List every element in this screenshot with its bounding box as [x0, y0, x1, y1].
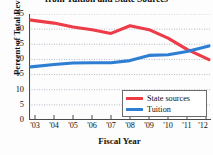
x-tick-label-0: '03 [25, 122, 45, 130]
chart-container: from Tuition and State Sources Percent o… [0, 0, 213, 155]
y-tick-label-5: 5 [0, 101, 24, 109]
x-axis-label: Fiscal Year [26, 136, 213, 146]
y-tick-label-10: 10 [0, 86, 24, 94]
y-tick-label-15: 15 [0, 70, 24, 78]
chart-title: from Tuition and State Sources [0, 0, 213, 4]
legend-label-state-sources: State sources [147, 94, 190, 103]
x-tick-label-2: '05 [63, 122, 83, 130]
x-tick-label-4: '07 [101, 122, 121, 130]
legend-item-state-sources[interactable]: State sources [126, 93, 206, 104]
y-tick-label-25: 25 [0, 40, 24, 48]
x-tick-label-1: '04 [44, 122, 64, 130]
y-tick-label-20: 20 [0, 55, 24, 63]
legend-swatch-tuition [126, 108, 143, 112]
legend-swatch-state-sources [126, 97, 143, 101]
x-tick-label-9: '12 [193, 122, 213, 130]
legend-label-tuition: Tuition [147, 105, 171, 114]
y-tick-label-35: 35 [0, 10, 24, 18]
legend-item-tuition[interactable]: Tuition [126, 104, 206, 115]
x-tick-label-5: '08 [120, 122, 140, 130]
x-tick-label-6: '09 [139, 122, 159, 130]
chart-legend: State sources Tuition [122, 90, 207, 117]
x-tick-label-7: '10 [158, 122, 178, 130]
series-line-tuition [31, 46, 209, 67]
y-tick-label-0: 0 [0, 116, 24, 124]
x-tick-label-3: '06 [82, 122, 102, 130]
y-tick-label-30: 30 [0, 25, 24, 33]
